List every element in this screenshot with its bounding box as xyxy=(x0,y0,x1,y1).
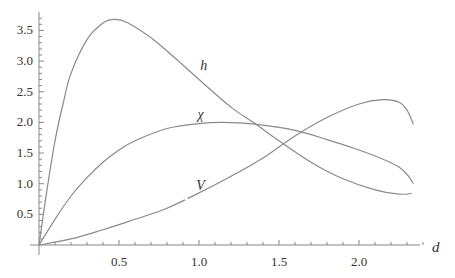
y-tick-label: 2.5 xyxy=(17,84,33,99)
curve-label-h: h xyxy=(200,58,207,73)
line-chart: 0.51.01.52.02.53.03.5 0.51.01.52.0 hχV d xyxy=(0,0,455,278)
y-axis: 0.51.01.52.02.53.03.5 xyxy=(17,12,44,255)
y-tick-label: 2.0 xyxy=(17,114,33,129)
x-tick-label: 1.5 xyxy=(271,254,287,269)
curve-h xyxy=(39,19,412,245)
curves xyxy=(39,19,413,245)
y-tick-label: 3.5 xyxy=(17,22,33,37)
x-tick-label: 2.0 xyxy=(351,254,367,269)
curve-gap xyxy=(185,197,188,200)
curve-v xyxy=(39,100,413,245)
y-tick-label: 1.0 xyxy=(17,176,33,191)
curve-label-v: V xyxy=(196,178,206,193)
y-tick-label: 1.5 xyxy=(17,145,33,160)
x-axis: 0.51.01.52.0 xyxy=(30,240,423,269)
y-tick-label: 0.5 xyxy=(17,206,33,221)
curve-chi xyxy=(39,122,413,245)
x-tick-label: 0.5 xyxy=(111,254,127,269)
curve-label-chi: χ xyxy=(196,107,205,122)
y-tick-label: 3.0 xyxy=(17,53,33,68)
x-tick-label: 1.0 xyxy=(191,254,207,269)
x-axis-label: d xyxy=(432,239,440,255)
